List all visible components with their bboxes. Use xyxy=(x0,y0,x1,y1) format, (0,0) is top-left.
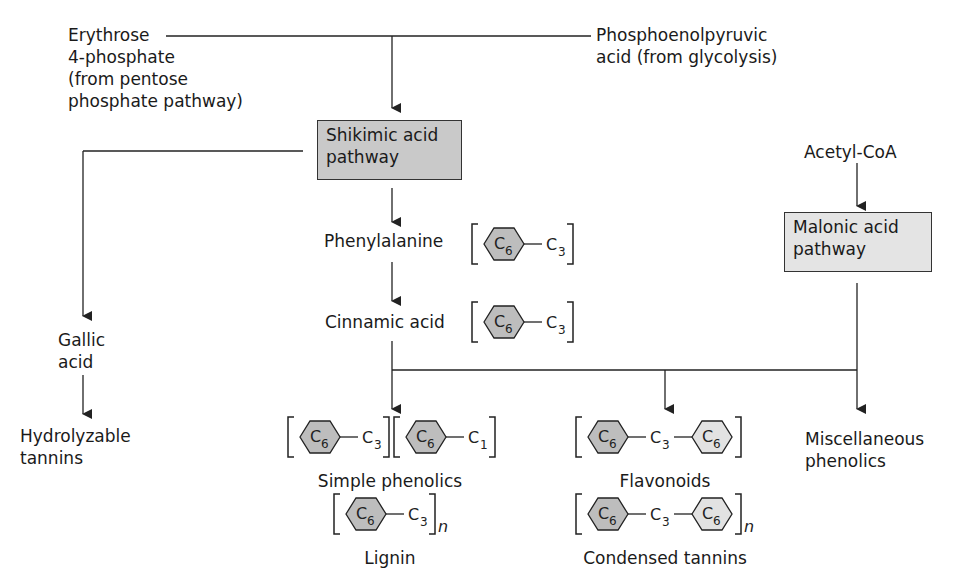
svg-text:1: 1 xyxy=(480,438,488,452)
svg-text:n: n xyxy=(744,517,754,536)
svg-text:C: C xyxy=(546,313,557,332)
svg-text:C: C xyxy=(598,504,609,523)
svg-text:C: C xyxy=(494,234,505,253)
svg-text:C: C xyxy=(702,504,713,523)
svg-text:6: 6 xyxy=(505,322,513,336)
structural-formulas: C6 C3 C6 C3 C6 C3 C6 xyxy=(0,0,966,587)
svg-text:C: C xyxy=(310,427,321,446)
svg-text:C: C xyxy=(650,428,661,447)
condensed-tannins-formula: C6 C3 C6 n xyxy=(576,494,754,536)
svg-text:n: n xyxy=(438,517,448,536)
svg-text:C: C xyxy=(408,505,419,524)
svg-text:C: C xyxy=(702,427,713,446)
svg-text:C: C xyxy=(356,504,367,523)
svg-text:6: 6 xyxy=(505,244,513,258)
svg-text:3: 3 xyxy=(662,515,670,529)
svg-text:C: C xyxy=(416,427,427,446)
svg-text:C: C xyxy=(362,428,373,447)
svg-text:6: 6 xyxy=(609,514,617,528)
svg-text:C: C xyxy=(650,505,661,524)
svg-text:C: C xyxy=(598,427,609,446)
flavonoids-formula: C6 C3 C6 xyxy=(576,417,741,457)
svg-text:3: 3 xyxy=(374,438,382,452)
cinnamic-acid-formula: C6 C3 xyxy=(472,302,573,342)
svg-text:6: 6 xyxy=(609,437,617,451)
svg-text:3: 3 xyxy=(558,323,566,337)
svg-text:C: C xyxy=(546,235,557,254)
svg-text:6: 6 xyxy=(427,437,435,451)
svg-text:6: 6 xyxy=(713,514,721,528)
svg-text:C: C xyxy=(494,312,505,331)
simple-phenolics-formula: C6 C3 C6 C1 xyxy=(288,417,495,457)
svg-text:3: 3 xyxy=(420,515,428,529)
svg-text:6: 6 xyxy=(321,437,329,451)
lignin-formula: C6 C3 n xyxy=(334,494,448,536)
svg-text:3: 3 xyxy=(662,438,670,452)
svg-text:6: 6 xyxy=(713,437,721,451)
svg-text:C: C xyxy=(468,428,479,447)
svg-text:3: 3 xyxy=(558,245,566,259)
phenylalanine-formula: C6 C3 xyxy=(472,224,573,264)
svg-text:6: 6 xyxy=(367,514,375,528)
